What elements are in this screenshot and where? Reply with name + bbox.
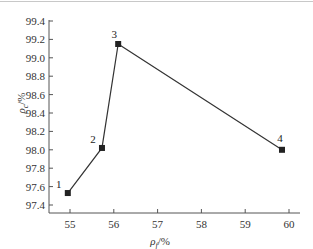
y-tick-label: 98.2 (26, 125, 45, 137)
data-point-label: 4 (277, 132, 283, 144)
x-tick-label: 57 (152, 218, 164, 230)
x-axis-title: ρf/% (149, 235, 170, 249)
x-tick-label: 58 (196, 218, 208, 230)
data-point-label: 1 (56, 178, 62, 190)
y-tick-label: 99.2 (26, 33, 45, 45)
line-chart: 97.497.697.898.098.298.498.698.899.099.2… (0, 0, 313, 249)
data-point-marker (99, 145, 105, 151)
y-tick-label: 97.4 (26, 199, 46, 211)
data-point-label: 2 (90, 133, 96, 145)
y-tick-label: 97.8 (26, 162, 46, 174)
y-tick-label: 99.4 (26, 15, 46, 27)
y-tick-label: 98.0 (26, 144, 46, 156)
x-tick-label: 56 (108, 218, 120, 230)
y-tick-label: 97.6 (26, 181, 46, 193)
y-tick-label: 98.8 (26, 70, 46, 82)
data-point-marker (279, 147, 285, 153)
data-point-marker (115, 41, 121, 47)
x-tick-label: 59 (240, 218, 252, 230)
y-tick-label: 99.0 (26, 52, 46, 64)
data-point-marker (65, 190, 71, 196)
data-line (68, 44, 282, 193)
data-point-label: 3 (111, 28, 117, 40)
x-tick-label: 60 (284, 218, 296, 230)
y-tick-label: 98.6 (26, 89, 46, 101)
x-tick-label: 55 (65, 218, 77, 230)
